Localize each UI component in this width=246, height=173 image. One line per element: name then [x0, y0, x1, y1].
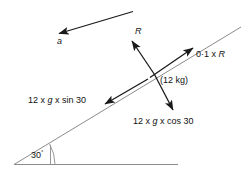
degree-symbol: ° — [41, 149, 43, 155]
angle-label: 30° — [31, 149, 43, 160]
weight-along-incline-arrow-icon — [105, 79, 148, 104]
normal-reaction-label: R — [135, 27, 142, 36]
friction-arrow-icon — [150, 48, 193, 78]
friction-label-text: 0·1 x R — [196, 49, 225, 59]
friction-label: 0·1 x R — [196, 50, 225, 59]
inclined-plane-diagram: a R 0·1 x R (12 kg) 12 x g x sin 30 12 x… — [0, 0, 246, 173]
weight-perpendicular-label: 12 x g x cos 30 — [133, 117, 194, 126]
angle-value: 30 — [31, 150, 41, 160]
mass-label: (12 kg) — [160, 76, 188, 85]
normal-reaction-arrow-icon — [132, 41, 155, 75]
weight-along-incline-label: 12 x g x sin 30 — [28, 96, 86, 105]
acceleration-label: a — [57, 37, 62, 46]
diagram-canvas — [0, 0, 246, 173]
acceleration-arrow-icon — [59, 12, 133, 34]
